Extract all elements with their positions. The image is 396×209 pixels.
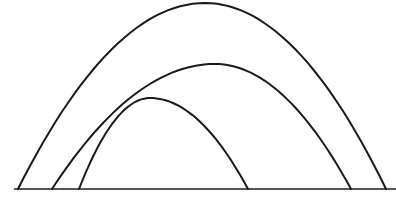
inner-arc [79,98,248,189]
trajectory-diagram [0,0,396,209]
outer-arc [18,3,386,189]
middle-arc [52,64,351,189]
